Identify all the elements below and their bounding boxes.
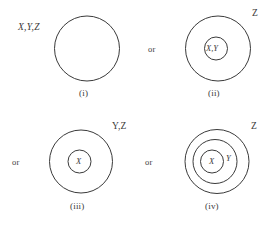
panel-i-caption: (i) bbox=[79, 89, 88, 98]
panel-i-outer-label: X,Y,Z bbox=[18, 23, 40, 33]
panel-ii-caption: (ii) bbox=[208, 89, 220, 98]
figure-canvas: X,Y,Z (i) or Z X,Y (ii) or Y,Z X (iii) o… bbox=[0, 0, 277, 226]
panel-iv-inner-label-y: Y bbox=[226, 154, 231, 163]
panel-iii-inner-label: X bbox=[76, 157, 81, 166]
panel-iv-inner-label-x: X bbox=[209, 157, 214, 166]
circles-svg bbox=[0, 0, 277, 226]
panel-iv-outer-label: Z bbox=[251, 122, 257, 132]
panel-iii-outer-label: Y,Z bbox=[112, 122, 127, 132]
panel-iii-caption: (iii) bbox=[70, 202, 85, 211]
panel-ii-outer-label: Z bbox=[252, 9, 258, 19]
or-connector-row2-left: or bbox=[12, 158, 19, 167]
or-connector-row2-right: or bbox=[145, 158, 152, 167]
panel-iv-caption: (iv) bbox=[205, 202, 219, 211]
panel-ii-inner-label: X,Y bbox=[206, 44, 218, 53]
panel-i-outer-circle bbox=[55, 16, 120, 81]
or-connector-row1: or bbox=[148, 45, 155, 54]
